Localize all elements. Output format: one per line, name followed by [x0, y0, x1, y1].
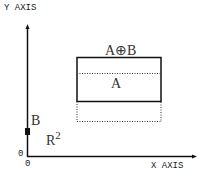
space-exponent: 2: [55, 129, 61, 141]
translated-set-dotted: [77, 102, 161, 122]
x-axis-arrow-icon: [192, 155, 197, 159]
space-base: R: [46, 133, 55, 148]
origin-y-label: 0: [18, 150, 23, 159]
sum-label: A⊕B: [105, 44, 136, 58]
y-axis-label: Y AXIS: [4, 4, 36, 13]
x-axis-label: X AXIS: [151, 162, 183, 171]
set-b-square: [25, 128, 30, 135]
set-b-label: B: [31, 114, 40, 128]
y-axis-arrow-icon: [26, 24, 30, 29]
set-a-label: A: [111, 77, 121, 91]
diagram-canvas: [0, 0, 207, 179]
space-label: R2: [46, 134, 61, 148]
origin-x-label: 0: [25, 160, 30, 169]
